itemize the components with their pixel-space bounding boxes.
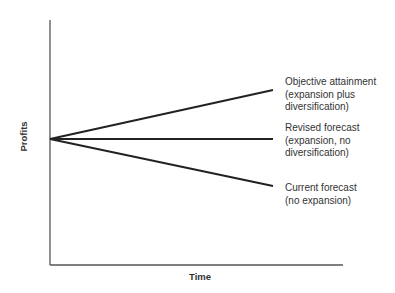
label-line: Current forecast bbox=[285, 182, 357, 195]
line-current-forecast bbox=[50, 139, 273, 186]
label-revised-forecast: Revised forecast (expansion, no diversif… bbox=[285, 122, 359, 160]
label-line: (expansion plus bbox=[285, 89, 376, 102]
line-objective-attainment bbox=[50, 90, 273, 139]
label-current-forecast: Current forecast (no expansion) bbox=[285, 182, 357, 207]
label-line: (no expansion) bbox=[285, 195, 357, 208]
label-line: Revised forecast bbox=[285, 122, 359, 135]
x-axis-label: Time bbox=[189, 271, 211, 282]
label-line: Objective attainment bbox=[285, 76, 376, 89]
label-objective-attainment: Objective attainment (expansion plus div… bbox=[285, 76, 376, 114]
y-axis-label: Profits bbox=[18, 122, 29, 152]
label-line: (expansion, no bbox=[285, 135, 359, 148]
label-line: diversification) bbox=[285, 147, 359, 160]
label-line: diversification) bbox=[285, 101, 376, 114]
